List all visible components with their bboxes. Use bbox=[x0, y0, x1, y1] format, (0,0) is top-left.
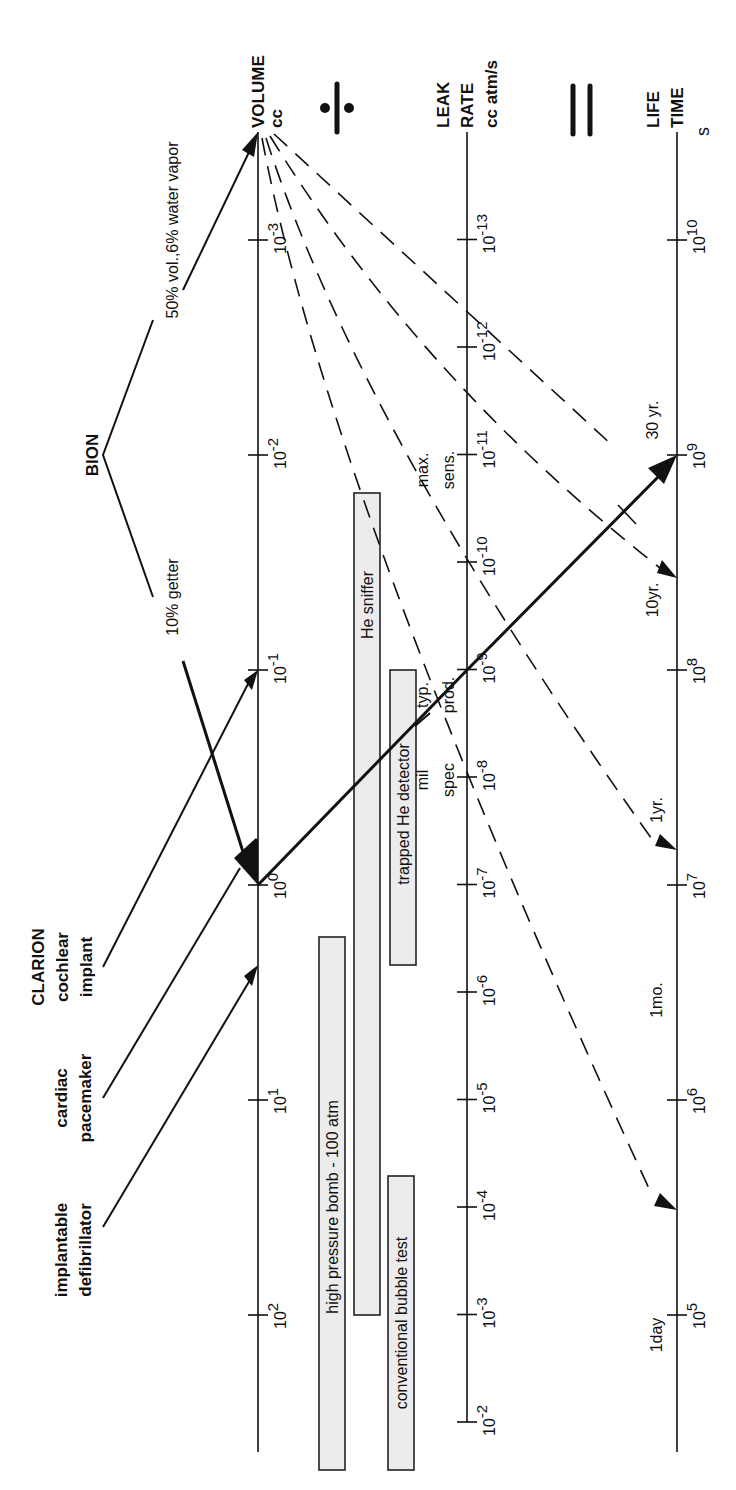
arrowhead-vapor bbox=[242, 132, 258, 157]
svg-text:cochlear: cochlear bbox=[53, 932, 72, 1002]
volume-ticks: 10-310-210-1100101102 bbox=[248, 223, 289, 1329]
lifetime-tick-label: 107 bbox=[683, 873, 708, 899]
divide-operator-icon bbox=[320, 84, 354, 132]
test-bar-high-pressure-bomb: high pressure bomb - 100 atm bbox=[319, 937, 345, 1470]
bion-vapor-arrow bbox=[183, 150, 250, 290]
leak_rate-tick-label: 10-7 bbox=[473, 867, 498, 898]
arrowhead-defibrillator bbox=[244, 965, 258, 986]
leak-title-line2: RATE bbox=[458, 83, 477, 128]
volume-tick-label: 10-3 bbox=[264, 223, 289, 254]
device-label-pacemaker: cardiac pacemaker bbox=[52, 1053, 95, 1142]
dashed-line-10yr bbox=[270, 136, 660, 568]
he-sniffer-label: He sniffer bbox=[359, 570, 376, 639]
device-label-clarion: CLARION cochlear implant bbox=[29, 928, 96, 1005]
life-title-line1: LIFE bbox=[644, 91, 663, 128]
svg-text:spec: spec bbox=[440, 763, 457, 797]
bion-title: BION bbox=[83, 434, 102, 477]
svg-text:implantable: implantable bbox=[52, 1203, 71, 1297]
test-bar-bubble-test: conventional bubble test bbox=[388, 1176, 414, 1470]
test-bar-trapped-he: trapped He detector bbox=[390, 670, 416, 965]
volume-tick-label: 101 bbox=[264, 1088, 289, 1114]
annotation-1yr: 1yr. bbox=[648, 797, 665, 823]
volume-tick-label: 102 bbox=[264, 1303, 289, 1329]
svg-text:cardiac: cardiac bbox=[52, 1068, 71, 1128]
pointer-clarion bbox=[103, 680, 250, 967]
leak-rate-axis-title: LEAK RATE cc atm/s bbox=[434, 60, 501, 128]
lifetime-tick-label: 105 bbox=[683, 1303, 708, 1329]
leak_rate-tick-label: 10-13 bbox=[473, 214, 498, 253]
high-pressure-bomb-label: high pressure bomb - 100 atm bbox=[324, 1100, 341, 1313]
lifetime-ticks: 1010109108107106105 bbox=[667, 220, 708, 1329]
leak_rate-tick-label: 10-2 bbox=[473, 1405, 498, 1436]
bion-getter-arrow bbox=[183, 661, 244, 855]
dashed-line-1yr bbox=[266, 138, 654, 842]
svg-text:mil: mil bbox=[414, 770, 431, 790]
leak-title-line1: LEAK bbox=[434, 81, 453, 128]
leak-title-line3: cc atm/s bbox=[482, 60, 501, 128]
leak_rate-tick-label: 10-3 bbox=[473, 1297, 498, 1328]
svg-text:implant: implant bbox=[77, 936, 96, 997]
arrowhead-30yr bbox=[648, 455, 677, 484]
arrowhead-1yr bbox=[655, 834, 677, 850]
svg-text:defibrillator: defibrillator bbox=[76, 1203, 95, 1297]
leak_rate-tick-label: 10-5 bbox=[473, 1082, 498, 1113]
leak_rate-tick-label: 10-10 bbox=[473, 537, 498, 576]
lifetime-axis-title: LIFE TIME s bbox=[644, 87, 713, 136]
arrowhead-getter bbox=[234, 838, 258, 885]
lifetime-tick-label: 1010 bbox=[683, 220, 708, 254]
volume-axis-title: VOLUME cc bbox=[249, 55, 286, 128]
arrowhead-1day bbox=[654, 1193, 677, 1210]
trapped-he-label: trapped He detector bbox=[395, 743, 412, 885]
annotation-max-sens: max. sens. bbox=[414, 451, 457, 489]
lifetime-tick-label: 109 bbox=[683, 443, 708, 469]
equals-operator-icon bbox=[573, 86, 590, 134]
bion-getter-label: 10% getter bbox=[164, 558, 181, 636]
volume-tick-label: 10-1 bbox=[264, 653, 289, 684]
volume-tick-label: 10-2 bbox=[264, 438, 289, 469]
leak_rate-tick-label: 10-8 bbox=[473, 760, 498, 791]
leak_rate-tick-label: 10-6 bbox=[473, 975, 498, 1006]
arrowhead-10yr bbox=[657, 560, 677, 578]
life-title-line3: s bbox=[693, 127, 713, 136]
leak_rate-tick-label: 10-9 bbox=[473, 652, 498, 683]
lifetime-tick-label: 106 bbox=[683, 1088, 708, 1114]
annotation-mil-spec: mil spec bbox=[414, 763, 457, 797]
leak_rate-tick-label: 10-4 bbox=[473, 1190, 498, 1221]
bubble-test-label: conventional bubble test bbox=[393, 1236, 410, 1409]
svg-text:prod.: prod. bbox=[440, 677, 457, 713]
bion-vapor-label: 50% vol.,6% water vapor bbox=[164, 141, 181, 319]
annotation-10yr: 10yr. bbox=[644, 583, 661, 618]
leak-rate-ticks: 10-1310-1210-1110-1010-910-810-710-610-5… bbox=[457, 214, 498, 1436]
annotation-1day: 1day bbox=[648, 1318, 665, 1353]
annotation-30yr: 30 yr. bbox=[644, 400, 661, 439]
svg-text:sens.: sens. bbox=[440, 451, 457, 489]
leak_rate-tick-label: 10-12 bbox=[473, 322, 498, 361]
leak-rate-nomogram: 10-310-210-1100101102 10-1310-1210-1110-… bbox=[0, 0, 736, 1490]
leak_rate-tick-label: 10-11 bbox=[473, 430, 498, 468]
svg-text:CLARION: CLARION bbox=[29, 928, 48, 1005]
bion-bracket bbox=[103, 320, 153, 597]
svg-text:pacemaker: pacemaker bbox=[76, 1053, 95, 1142]
pointer-defibrillator bbox=[103, 980, 250, 1227]
test-bar-he-sniffer: He sniffer bbox=[354, 493, 380, 1315]
volume-title-line2: cc bbox=[267, 109, 286, 128]
volume-title-line1: VOLUME bbox=[249, 55, 268, 128]
device-label-defibrillator: implantable defibrillator bbox=[52, 1203, 95, 1297]
life-title-line2: TIME bbox=[668, 87, 687, 128]
lifetime-tick-label: 108 bbox=[683, 658, 708, 684]
svg-text:typ.: typ. bbox=[414, 682, 431, 708]
pointer-pacemaker bbox=[103, 868, 240, 1098]
annotation-1mo: 1mo. bbox=[648, 982, 665, 1018]
svg-text:max.: max. bbox=[414, 453, 431, 488]
